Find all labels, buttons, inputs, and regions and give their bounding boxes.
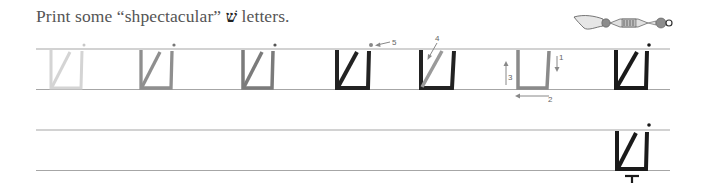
shin-example-2 <box>141 43 176 88</box>
shin-example-5 <box>421 50 454 88</box>
stroke-arrow-1: 1 <box>555 53 565 72</box>
shin-dot <box>273 43 276 46</box>
stroke-number-4: 4 <box>435 34 440 43</box>
practice-row-1 <box>36 49 670 90</box>
stroke-arrow-2: 2 <box>515 94 553 105</box>
stroke-arrow-3: 3 <box>504 61 514 85</box>
writing-sheet: 5 4 1 2 3 <box>0 0 716 189</box>
shin-dot <box>647 123 651 127</box>
practice-row-2 <box>36 130 670 171</box>
shin-dot <box>647 43 651 47</box>
shin-example-1 <box>51 44 86 89</box>
stroke-number-1: 1 <box>559 53 564 62</box>
yad-pointer-icon <box>574 16 672 30</box>
shin-dot <box>369 43 373 47</box>
shin-example-7 <box>616 43 651 88</box>
shin-example-6-stroke-guide <box>518 50 549 88</box>
shin-example-3 <box>243 43 277 88</box>
shin-dot <box>172 43 175 46</box>
stroke-number-5: 5 <box>392 38 397 47</box>
vowel-tsere-mark <box>625 176 639 183</box>
shin-dot <box>83 44 86 47</box>
stroke-arrow-5: 5 <box>375 38 397 47</box>
stroke-number-2: 2 <box>548 95 553 104</box>
stroke-number-3: 3 <box>508 73 513 82</box>
shin-example-4 <box>337 43 373 88</box>
